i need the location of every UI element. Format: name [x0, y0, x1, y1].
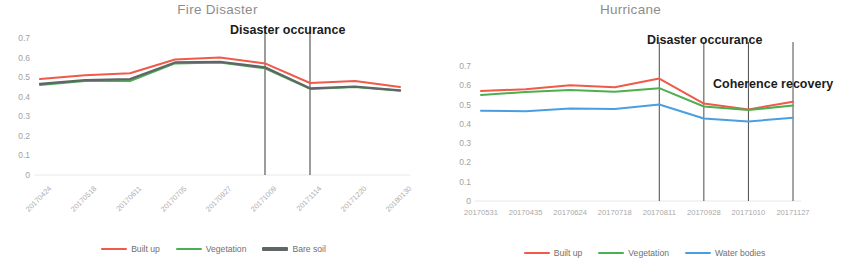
legend-label-vegetation: Vegetation — [628, 248, 669, 258]
x-axis-tick-label: 20170928 — [687, 208, 721, 217]
x-axis-tick-label: 20170811 — [643, 208, 676, 217]
x-axis-tick-label: 20170435 — [509, 208, 543, 217]
legend-fire-disaster: Built up Vegetation Bare soil — [2, 244, 425, 254]
y-axis-tick-label: 0.1 — [18, 150, 30, 160]
y-axis-tick-label: 0.6 — [459, 80, 471, 90]
legend-swatch-built-up — [101, 248, 127, 251]
y-axis-tick-label: 0.1 — [459, 177, 471, 187]
legend-label-vegetation: Vegetation — [206, 244, 247, 254]
x-axis-tick-label: 20171220 — [339, 184, 369, 214]
annotation-label: Disaster occurance — [647, 33, 762, 47]
x-axis-tick-label: 20171009 — [249, 184, 279, 214]
x-axis-tick-label: 20171010 — [732, 208, 766, 217]
y-axis-tick-label: 0.2 — [18, 131, 30, 141]
legend-hurricane: Built up Vegetation Water bodies — [433, 248, 846, 258]
legend-label-bare-soil: Bare soil — [292, 244, 325, 254]
annotation-label: Coherence recovery — [713, 77, 833, 91]
legend-label-built-up: Built up — [554, 248, 583, 258]
x-axis-tick-label: 20171127 — [776, 208, 809, 217]
x-axis-tick-label: 20170927 — [204, 184, 234, 214]
legend-item-built-up[interactable]: Built up — [524, 248, 583, 258]
y-axis-tick-label: 0.2 — [459, 157, 471, 167]
fire-disaster-svg: 00.10.20.30.40.50.60.7201704242017051820… — [0, 18, 423, 268]
chart-panel-hurricane: Hurricane 00.10.20.30.40.50.60.720170531… — [423, 0, 846, 268]
series-line-water-bodies — [481, 105, 793, 122]
y-axis-tick-label: 0.4 — [459, 119, 471, 129]
annotation-label: Disaster occurance — [230, 23, 345, 37]
x-axis-tick-label: 20170518 — [69, 184, 99, 214]
plot-area-fire-disaster: 00.10.20.30.40.50.60.7201704242017051820… — [0, 18, 423, 268]
y-axis-tick-label: 0.7 — [459, 61, 471, 71]
x-axis-tick-label: 20180130 — [384, 184, 414, 214]
plot-area-hurricane: 00.10.20.30.40.50.60.7201705312017043520… — [423, 18, 846, 268]
legend-swatch-water-bodies — [685, 252, 711, 255]
chart-panel-fire-disaster: Fire Disaster 00.10.20.30.40.50.60.72017… — [0, 0, 423, 268]
x-axis-tick-label: 20170531 — [464, 208, 498, 217]
legend-label-built-up: Built up — [131, 244, 160, 254]
legend-swatch-built-up — [524, 252, 550, 255]
x-axis-tick-label: 20170424 — [24, 184, 54, 214]
x-axis-tick-label: 20171114 — [295, 184, 324, 213]
y-axis-tick-label: 0.6 — [18, 53, 30, 63]
x-axis-tick-label: 20170705 — [159, 184, 189, 214]
legend-swatch-vegetation — [176, 248, 202, 251]
dual-line-chart-figure: Fire Disaster 00.10.20.30.40.50.60.72017… — [0, 0, 846, 268]
hurricane-svg: 00.10.20.30.40.50.60.7201705312017043520… — [423, 18, 846, 268]
legend-swatch-bare-soil — [262, 247, 288, 250]
y-axis-tick-label: 0 — [466, 196, 471, 206]
chart-title-fire-disaster: Fire Disaster — [6, 2, 429, 17]
y-axis-tick-label: 0.3 — [18, 111, 30, 121]
y-axis-tick-label: 0.3 — [459, 138, 471, 148]
x-axis-tick-label: 20170718 — [598, 208, 632, 217]
legend-item-built-up[interactable]: Built up — [101, 244, 160, 254]
y-axis-tick-label: 0 — [25, 170, 30, 180]
legend-label-water-bodies: Water bodies — [715, 248, 765, 258]
legend-swatch-vegetation — [598, 252, 624, 255]
legend-item-water-bodies[interactable]: Water bodies — [685, 248, 765, 258]
legend-item-vegetation[interactable]: Vegetation — [598, 248, 669, 258]
x-axis-tick-label: 20170611 — [114, 184, 143, 213]
legend-item-bare-soil[interactable]: Bare soil — [262, 244, 325, 254]
y-axis-tick-label: 0.7 — [18, 33, 30, 43]
x-axis-tick-label: 20170624 — [553, 208, 587, 217]
series-line-bare-soil — [40, 62, 400, 91]
y-axis-tick-label: 0.5 — [18, 72, 30, 82]
legend-item-vegetation[interactable]: Vegetation — [176, 244, 247, 254]
chart-title-hurricane: Hurricane — [419, 2, 842, 17]
y-axis-tick-label: 0.5 — [459, 100, 471, 110]
y-axis-tick-label: 0.4 — [18, 92, 30, 102]
